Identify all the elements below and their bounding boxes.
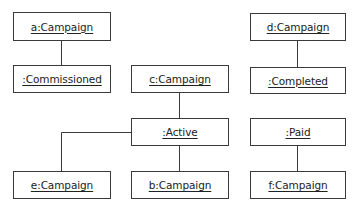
node-f-campaign: f:Campaign [250, 171, 346, 199]
node-label: :Active [162, 126, 197, 138]
node-label: f:Campaign [268, 179, 327, 191]
node-b-campaign: b:Campaign [131, 171, 229, 199]
node-completed: :Completed [250, 67, 346, 94]
node-label: e:Campaign [31, 179, 93, 191]
node-c-campaign: c:Campaign [131, 65, 229, 93]
node-label: c:Campaign [149, 73, 211, 85]
node-e-campaign: e:Campaign [13, 171, 111, 199]
node-label: a:Campaign [31, 21, 93, 33]
node-a-campaign: a:Campaign [13, 12, 111, 41]
node-label: :Commissioned [22, 73, 101, 85]
node-active: :Active [131, 118, 229, 146]
node-label: :Paid [286, 126, 311, 138]
node-label: :Completed [268, 75, 328, 87]
link-active-e [62, 133, 132, 172]
node-label: b:Campaign [149, 179, 212, 191]
node-d-campaign: d:Campaign [250, 13, 346, 41]
node-label: d:Campaign [267, 21, 330, 33]
node-paid: :Paid [250, 118, 346, 146]
node-commissioned: :Commissioned [13, 65, 111, 93]
diagram-canvas: a:Campaign :Commissioned c:Campaign :Act… [0, 0, 354, 211]
